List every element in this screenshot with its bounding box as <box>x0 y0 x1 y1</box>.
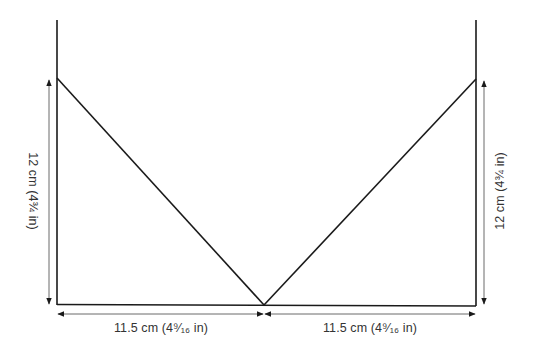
bottom-right-width-label: 11.5 cm (4⁹⁄₁₆ in) <box>323 321 417 335</box>
v-neck-diagram <box>0 0 537 353</box>
right-height-label: 12 cm (4¾ in) <box>493 152 507 230</box>
right-diagonal-line <box>264 79 476 305</box>
bottom-edge-line <box>57 305 476 307</box>
panel-outline <box>57 20 476 306</box>
left-height-label: 12 cm (4¾ in) <box>26 152 40 230</box>
left-diagonal-line <box>57 78 264 305</box>
bottom-left-width-label: 11.5 cm (4⁹⁄₁₆ in) <box>114 321 208 335</box>
dimension-arrows <box>49 80 484 314</box>
